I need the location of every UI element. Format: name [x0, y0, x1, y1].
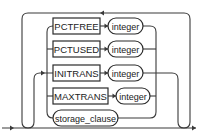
- option-storage-clause: storage_clause: [53, 110, 118, 126]
- choice-entry: [28, 73, 53, 128]
- entry-arrow-icon: [10, 126, 14, 131]
- left-rail: [47, 26, 53, 118]
- param-label: integer: [112, 69, 140, 79]
- keyword-label: MAXTRANS: [54, 91, 107, 102]
- keyword-label: INITRANS: [54, 68, 98, 79]
- param-label: integer: [112, 45, 140, 55]
- option-initrans: INITRANS integer: [53, 65, 143, 81]
- keyword-label: PCTFREE: [54, 21, 98, 32]
- loop-arrow-icon: [100, 11, 104, 16]
- nonterminal-label: storage_clause: [55, 114, 116, 124]
- choice-arrow-icon: [41, 71, 45, 76]
- param-label: integer: [112, 22, 140, 32]
- keyword-label: PCTUSED: [54, 44, 100, 55]
- option-pctused: PCTUSED integer: [53, 41, 143, 57]
- param-label: integer: [119, 92, 147, 102]
- syntax-diagram: PCTFREE integer PCTUSED integer INITRANS…: [0, 0, 201, 137]
- option-pctfree: PCTFREE integer: [53, 18, 143, 34]
- option-maxtrans: MAXTRANS integer: [53, 88, 150, 104]
- exit-arrow-icon: [192, 126, 196, 131]
